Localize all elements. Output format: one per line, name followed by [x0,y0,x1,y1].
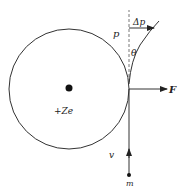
scattering-diagram: +Ze m v p θ Δp F [0,0,190,194]
momentum-label: p [113,28,120,39]
nucleus-dot [66,85,73,92]
nucleus-charge-label: +Ze [54,106,73,116]
momentum-change-label: Δp [132,17,145,27]
velocity-label: v [109,150,114,160]
particle-dot [127,173,131,177]
particle-mass-label: m [126,179,134,188]
deflection-angle-label: θ [131,48,137,58]
diagram-svg: +Ze m v p θ Δp F [0,0,190,194]
force-label: F [168,84,177,95]
